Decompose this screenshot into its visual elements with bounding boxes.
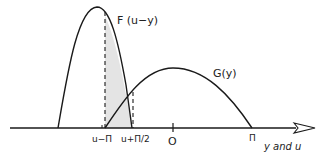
axis-label: y and u <box>263 141 301 152</box>
axis-arrow-icon <box>294 123 315 133</box>
tick-label-u-plus-pi-half: u+Π/2 <box>121 134 150 144</box>
label-f: F (u−y) <box>117 14 158 27</box>
tick-label-origin: O <box>168 135 177 148</box>
label-g: G(y) <box>213 67 237 80</box>
tick-label-pi: Π <box>249 133 256 143</box>
tick-label-u-minus-pi: u−Π <box>92 134 112 144</box>
diagram-canvas: F (u−y) G(y) u−Π u+Π/2 O Π y and u <box>0 0 329 158</box>
shaded-region <box>105 16 132 128</box>
